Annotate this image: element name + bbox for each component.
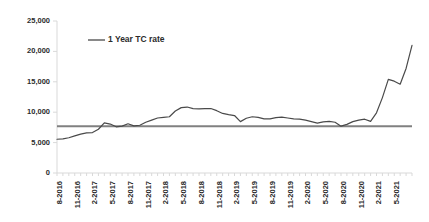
- y-axis-tick-labels: 05,00010,00015,00020,00025,000: [27, 16, 50, 177]
- y-axis-tick-label: 15,000: [27, 77, 50, 86]
- x-axis-tick-marks: [57, 173, 412, 176]
- series-line-1-year-tc-rate: [57, 45, 412, 139]
- x-axis-tick-label: 11-2016: [73, 181, 82, 208]
- x-axis-tick-label: 5-2019: [250, 181, 259, 204]
- x-axis-tick-label: 5-2021: [392, 181, 401, 204]
- x-axis-tick-label: 2-2020: [303, 181, 312, 204]
- x-axis-tick-label: 2-2019: [232, 181, 241, 204]
- x-axis-tick-label: 8-2019: [268, 181, 277, 204]
- x-axis-tick-label: 2-2021: [374, 181, 383, 204]
- y-axis-tick-label: 10,000: [27, 107, 50, 116]
- line-chart: 05,00010,00015,00020,00025,000 8-201611-…: [0, 0, 429, 222]
- x-axis-tick-label: 8-2017: [126, 181, 135, 204]
- x-axis-tick-label: 11-2019: [286, 181, 295, 208]
- y-axis-tick-label: 0: [46, 168, 50, 177]
- x-axis-tick-label: 5-2017: [108, 181, 117, 204]
- x-axis-tick-label: 11-2018: [215, 181, 224, 208]
- x-axis-tick-label: 11-2017: [144, 181, 153, 208]
- chart-legend: 1 Year TC rate: [88, 34, 165, 44]
- y-axis-tick-label: 25,000: [27, 16, 50, 25]
- x-axis-tick-labels: 8-201611-20162-20175-20178-201711-20172-…: [55, 181, 401, 208]
- x-axis-tick-label: 2-2018: [161, 181, 170, 204]
- legend-label: 1 Year TC rate: [108, 34, 165, 44]
- y-axis-tick-label: 20,000: [27, 46, 50, 55]
- y-axis-tick-marks: [53, 21, 57, 173]
- x-axis-tick-label: 8-2018: [197, 181, 206, 204]
- x-axis-tick-label: 11-2020: [357, 181, 366, 208]
- x-axis-tick-label: 8-2016: [55, 181, 64, 204]
- x-axis-tick-label: 8-2020: [339, 181, 348, 204]
- x-axis-tick-label: 5-2018: [179, 181, 188, 204]
- y-axis-tick-label: 5,000: [31, 138, 50, 147]
- x-axis-tick-label: 2-2017: [90, 181, 99, 204]
- x-axis-tick-label: 5-2020: [321, 181, 330, 204]
- chart-container: 05,00010,00015,00020,00025,000 8-201611-…: [0, 0, 429, 222]
